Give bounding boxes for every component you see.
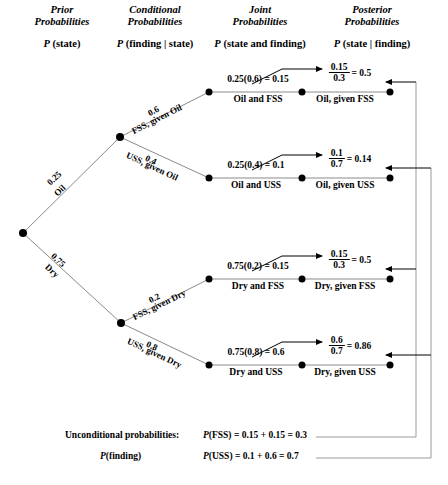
node-joint-2	[206, 175, 213, 182]
posterior-fraction-1: 0.15 0.3 = 0.5	[329, 62, 371, 83]
posterior-name-4: Dry, given USS	[314, 367, 376, 377]
node-oil	[116, 133, 124, 141]
posterior-numerator-3: 0.15	[329, 249, 350, 259]
branch-prior-dry	[23, 233, 121, 323]
subheader-prior: P (state)	[43, 38, 80, 49]
node-joint-3	[206, 276, 213, 283]
node-post-4	[387, 362, 394, 369]
joint-name-1: Oil and FSS	[233, 94, 282, 104]
subheader-joint: P (state and finding)	[214, 38, 305, 49]
header-joint: JointProbabilities	[233, 4, 288, 28]
posterior-result-2: = 0.14	[345, 154, 371, 164]
summary-label-line1: Unconditional probabilities:	[65, 430, 179, 440]
joint-value-4: 0.75(0.8) = 0.6	[228, 347, 285, 357]
row-rails	[209, 92, 390, 365]
posterior-fraction-2: 0.1 0.7 = 0.14	[329, 148, 371, 169]
node-mid-4	[299, 362, 306, 369]
probability-tree-diagram	[0, 0, 448, 485]
node-root	[19, 229, 27, 237]
joint-name-2: Oil and USS	[231, 180, 281, 190]
subheader-conditional: P (finding | state)	[117, 38, 194, 49]
node-joint-1	[206, 89, 213, 96]
header-posterior: PosteriorProbabilities	[345, 4, 400, 28]
joint-name-3: Dry and FSS	[232, 281, 284, 291]
tree-nodes	[19, 89, 394, 369]
posterior-name-3: Dry, given FSS	[315, 281, 375, 291]
joint-name-4: Dry and USS	[229, 367, 282, 377]
node-post-1	[387, 89, 394, 96]
node-mid-2	[299, 175, 306, 182]
posterior-numerator-4: 0.6	[329, 335, 345, 345]
posterior-result-4: = 0.86	[345, 341, 371, 351]
node-post-3	[387, 276, 394, 283]
posterior-fraction-4: 0.6 0.7 = 0.86	[329, 335, 371, 356]
posterior-denominator-2: 0.7	[329, 158, 345, 169]
joint-value-2: 0.25(0.4) = 0.1	[228, 160, 285, 170]
posterior-name-2: Oil, given USS	[316, 180, 375, 190]
summary-label-line2: P(finding)	[100, 451, 141, 461]
summary-equation-uss: P(USS) = 0.1 + 0.6 = 0.7	[203, 451, 299, 461]
summary-equation-fss: P(FSS) = 0.15 + 0.15 = 0.3	[203, 430, 307, 440]
posterior-denominator-1: 0.3	[329, 72, 350, 83]
subheader-posterior: P (state | finding)	[334, 38, 411, 49]
joint-to-posterior-arrows	[252, 69, 322, 357]
node-post-2	[387, 175, 394, 182]
feedback-rails	[316, 82, 431, 458]
header-prior: PriorProbabilities	[35, 4, 90, 28]
header-conditional: ConditionalProbabilities	[128, 4, 183, 28]
posterior-numerator-2: 0.1	[329, 148, 345, 158]
posterior-numerator-1: 0.15	[329, 62, 350, 72]
joint-value-1: 0.25(0.6) = 0.15	[227, 74, 289, 84]
posterior-name-1: Oil, given FSS	[316, 94, 374, 104]
posterior-denominator-3: 0.3	[329, 259, 350, 270]
branch-prior-oil	[23, 137, 120, 233]
posterior-denominator-4: 0.7	[329, 345, 345, 356]
tree-branches	[23, 92, 209, 365]
uss-feedback-rail	[316, 168, 431, 458]
posterior-result-3: = 0.5	[349, 255, 371, 265]
node-joint-4	[206, 362, 213, 369]
node-dry	[117, 319, 125, 327]
node-mid-1	[299, 89, 306, 96]
feedback-arrows	[386, 82, 431, 355]
posterior-result-1: = 0.5	[349, 68, 371, 78]
joint-value-3: 0.75(0.2) = 0.15	[227, 261, 289, 271]
node-mid-3	[299, 276, 306, 283]
posterior-fraction-3: 0.15 0.3 = 0.5	[329, 249, 371, 270]
